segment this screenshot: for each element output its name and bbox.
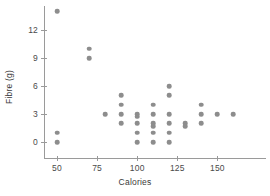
data-point xyxy=(215,112,220,117)
data-point xyxy=(55,130,60,135)
x-tick-label: 75 xyxy=(92,163,102,173)
data-point xyxy=(87,46,92,51)
y-tick-label: 6 xyxy=(18,81,38,91)
y-tick-label: 12 xyxy=(18,25,38,35)
data-point xyxy=(103,112,108,117)
data-point xyxy=(135,121,140,126)
data-point xyxy=(199,121,204,126)
data-point xyxy=(167,112,172,117)
data-point xyxy=(55,9,60,14)
x-tick-label: 150 xyxy=(210,163,225,173)
data-point xyxy=(135,130,140,135)
y-tick-mark xyxy=(41,86,47,87)
data-point xyxy=(55,140,60,145)
data-point xyxy=(167,130,172,135)
x-tick-mark xyxy=(137,156,138,161)
y-tick-label: 0 xyxy=(18,137,38,147)
y-tick-mark xyxy=(41,58,47,59)
data-point xyxy=(151,102,156,107)
data-point xyxy=(135,140,140,145)
x-tick-mark xyxy=(57,156,58,161)
y-axis-line xyxy=(44,6,45,158)
data-point xyxy=(119,121,124,126)
data-point xyxy=(167,84,172,89)
data-point xyxy=(199,112,204,117)
x-axis-title: Calories xyxy=(0,177,270,187)
data-point xyxy=(167,121,172,126)
y-axis-title: Fibre (g) xyxy=(4,62,14,112)
data-point xyxy=(119,93,124,98)
x-tick-label: 100 xyxy=(130,163,145,173)
data-point xyxy=(231,112,236,117)
x-tick-label: 50 xyxy=(52,163,62,173)
data-point xyxy=(151,140,156,145)
data-point xyxy=(151,130,156,135)
plot-area: 5075100125150 036912 Calories Fibre (g) xyxy=(0,0,270,196)
data-point xyxy=(199,102,204,107)
data-point xyxy=(167,140,172,145)
data-point xyxy=(151,124,156,129)
data-point xyxy=(151,112,156,117)
data-point xyxy=(135,115,140,120)
data-point xyxy=(119,102,124,107)
data-point xyxy=(167,93,172,98)
y-tick-mark xyxy=(41,114,47,115)
x-tick-mark xyxy=(97,156,98,161)
x-tick-label: 125 xyxy=(170,163,185,173)
x-axis-line xyxy=(44,158,266,159)
y-tick-label: 3 xyxy=(18,109,38,119)
x-tick-mark xyxy=(177,156,178,161)
scatter-plot: 5075100125150 036912 Calories Fibre (g) xyxy=(0,0,270,196)
y-tick-mark xyxy=(41,142,47,143)
y-tick-label: 9 xyxy=(18,53,38,63)
y-tick-mark xyxy=(41,30,47,31)
data-point xyxy=(119,112,124,117)
data-point xyxy=(183,124,188,129)
x-tick-mark xyxy=(217,156,218,161)
data-point xyxy=(87,56,92,61)
